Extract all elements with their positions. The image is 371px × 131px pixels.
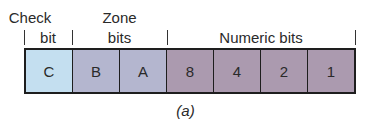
zone-label-line1: Zone: [72, 10, 167, 26]
bit-cell-a: A: [120, 50, 167, 92]
bracket-tick: [72, 30, 73, 45]
bit-register: C B A 8 4 2 1: [24, 48, 356, 94]
check-label-line2: bit: [24, 30, 72, 46]
zone-label-line2: bits: [72, 30, 167, 46]
bit-cell-c: C: [26, 50, 73, 92]
bit-cell-2: 2: [261, 50, 308, 92]
bit-cell-8: 8: [167, 50, 214, 92]
bracket-tick: [167, 30, 168, 45]
bit-cell-b: B: [73, 50, 120, 92]
check-label-line1: Check: [4, 10, 56, 26]
figure-caption: (a): [0, 102, 371, 119]
bracket-tick: [355, 30, 356, 45]
bit-cell-1: 1: [308, 50, 354, 92]
bit-cell-4: 4: [214, 50, 261, 92]
bracket-tick: [24, 30, 25, 45]
numeric-bits-label: Numeric bits: [167, 30, 355, 46]
